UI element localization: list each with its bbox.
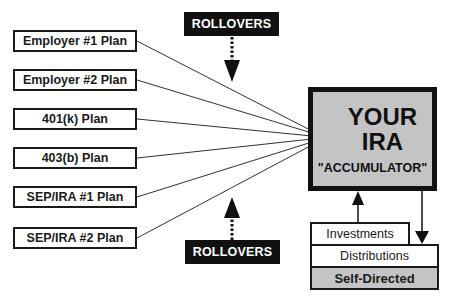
plan-box-sep-ira-2: SEP/IRA #2 Plan [13, 227, 137, 249]
ira-rollover-diagram: Employer #1 Plan Employer #2 Plan 401(k)… [0, 0, 450, 302]
ira-title-your: YOUR [333, 105, 432, 129]
plan-box-403b: 403(b) Plan [13, 147, 137, 169]
plan-box-401k: 401(k) Plan [13, 108, 137, 130]
plan-box-employer-2: Employer #2 Plan [13, 69, 137, 91]
ira-title-ira: IRA [333, 130, 432, 154]
plan-box-sep-ira-1: SEP/IRA #1 Plan [13, 186, 137, 208]
distributions-box: Distributions [310, 244, 439, 268]
self-directed-box: Self-Directed [310, 266, 439, 290]
investments-box: Investments [310, 222, 410, 246]
your-ira-accumulator-box: YOUR IRA "ACCUMULATOR" [308, 87, 437, 191]
rollovers-label-bottom: ROLLOVERS [185, 240, 280, 264]
ira-subtitle-accumulator: "ACCUMULATOR" [313, 161, 432, 175]
plan-box-employer-1: Employer #1 Plan [13, 30, 137, 52]
rollovers-label-top: ROLLOVERS [184, 12, 279, 36]
